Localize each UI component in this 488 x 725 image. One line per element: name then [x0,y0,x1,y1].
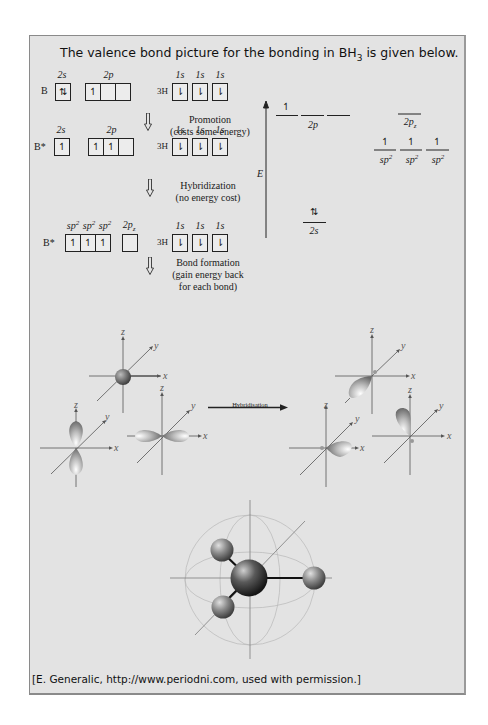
hydrogen-label: 3H [157,237,168,247]
hydrogen-label: 3H [157,141,168,151]
orbital-label-2s: 2s [54,124,68,135]
hydrogen-label: 3H [157,86,168,96]
orbital-label-2p: 2p [88,124,135,135]
orbital-label-sp2: sp2 [81,219,97,231]
orbital-label-2pz: 2pz [121,219,137,233]
electron-box: ⇂ [192,234,208,252]
electron-box [101,84,116,100]
electron-box [123,235,137,251]
level-label-sp2: sp2 [375,153,397,165]
electron-box: ↿ [104,139,119,155]
level-label-2pz: 2pz [398,116,422,130]
orbital-label-1s: 1s [212,220,228,231]
electron-box [119,139,133,155]
orbital-label-1s: 1s [192,220,208,231]
electron-up: ↿ [380,136,390,147]
electron-box: ↿ [89,139,104,155]
electron-box: ⇂ [212,83,228,101]
electron-box: ⇂ [212,138,228,156]
orbital-box-2p: ↿ [85,83,131,101]
orbital-label-2p: 2p [85,69,132,80]
orbital-label-1s: 1s [192,69,208,80]
page-title: The valence bond picture for the bonding… [60,45,459,63]
electron-box: ⇂ [192,138,208,156]
down-arrow-icon [144,113,152,131]
hybridisation-label: Hybridisation [220,401,280,408]
down-arrow-icon [146,179,154,197]
atom-label: B* [34,141,46,152]
electron-box [116,84,130,100]
orbital-box-1s: ⇂ ⇂ ⇂ [172,234,228,252]
down-arrow-icon [146,257,154,275]
electron-box: ⇂ [172,138,188,156]
step-bond-formation: Bond formation(gain energy backfor each … [166,257,250,293]
electron-box: ↿ [86,84,101,100]
electron-box: ↿ [55,139,69,155]
energy-axis-label: E [254,168,266,179]
orbital-label-1s: 1s [192,124,208,135]
atom-label: B [41,85,48,96]
electron-up: ↿ [281,101,291,112]
orbital-label-1s: 1s [212,124,228,135]
orbital-label-1s: 1s [172,220,188,231]
electron-box: ⇂ [212,234,228,252]
step-hybridization: Hybridization(no energy cost) [168,180,248,204]
electron-box: ↿ [96,235,110,251]
orbital-label-sp2: sp2 [65,219,81,231]
electron-box: ↿ [81,235,96,251]
level-label-sp2: sp2 [427,153,449,165]
orbital-box-sp2: ↿ ↿ ↿ [65,234,111,252]
orbital-label-sp2: sp2 [97,219,113,231]
level-label-2p: 2p [302,119,324,130]
electron-box: ⇂ [192,83,208,101]
orbital-box-1s: ⇂ ⇂ ⇂ [172,138,228,156]
electron-box: ⇂ [172,83,188,101]
electron-box: ⇂ [172,234,188,252]
orbital-box-2pz [122,234,138,252]
orbital-label-2s: 2s [55,69,69,80]
orbital-label-1s: 1s [172,124,188,135]
atom-label: B* [43,237,55,248]
orbital-box-1s: ⇂ ⇂ ⇂ [172,83,228,101]
electron-pair: ⇅ [306,206,322,217]
orbital-label-1s: 1s [212,69,228,80]
orbital-box-2s: ↿ [54,138,70,156]
electron-box: ⇅ [56,84,70,100]
level-label-2s: 2s [303,225,325,236]
orbital-box-2s: ⇅ [55,83,71,101]
electron-up: ↿ [432,136,442,147]
credit-caption: [E. Generalic, http://www.periodni.com, … [32,673,361,685]
orbital-label-1s: 1s [172,69,188,80]
electron-up: ↿ [406,136,416,147]
electron-box: ↿ [66,235,81,251]
level-label-sp2: sp2 [401,153,423,165]
orbital-box-2p: ↿ ↿ [88,138,134,156]
